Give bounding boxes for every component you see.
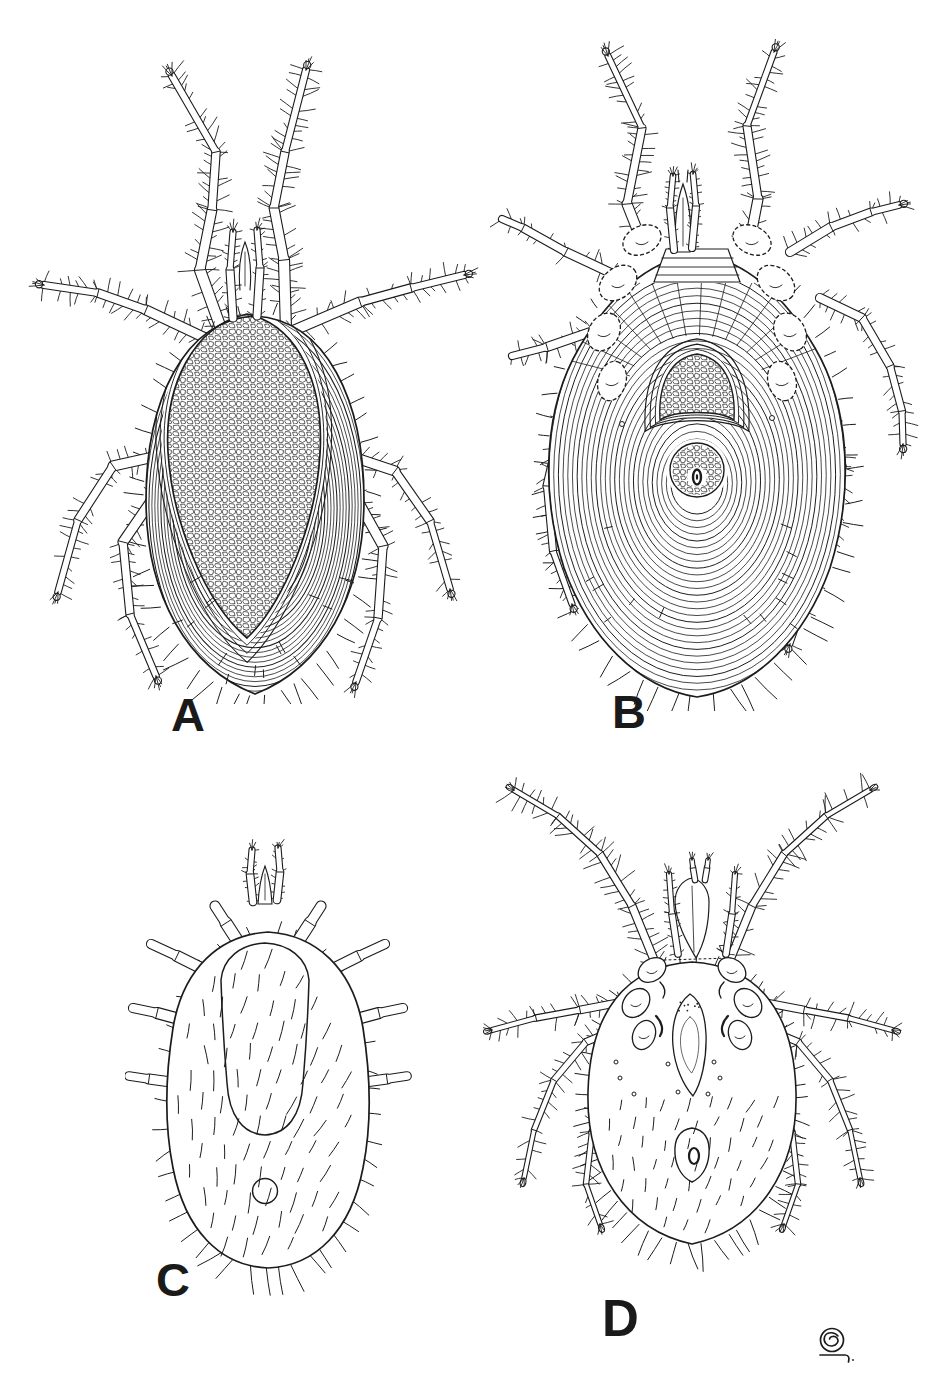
- panel-d-label: D: [602, 1293, 640, 1344]
- mite-c-illustration: [125, 838, 445, 1308]
- artist-monogram-icon: [805, 1298, 875, 1368]
- mite-b-illustration: [490, 36, 930, 711]
- panel-c-label: C: [156, 1256, 191, 1303]
- panel-b-label: B: [612, 688, 647, 735]
- figure-plate: A B C D: [0, 0, 930, 1387]
- mite-d-illustration: [464, 762, 930, 1342]
- panel-a-label: A: [171, 691, 206, 738]
- mite-a-illustration: [18, 4, 483, 704]
